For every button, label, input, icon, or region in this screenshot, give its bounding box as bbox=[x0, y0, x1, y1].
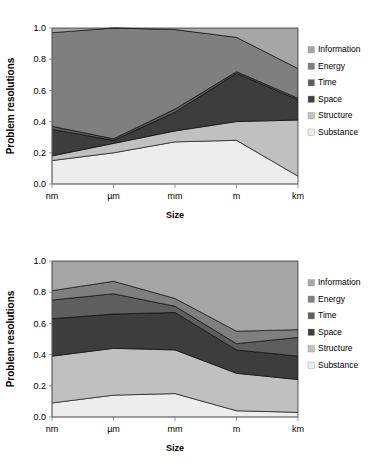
y-axis-title: Problem resolutions bbox=[5, 290, 16, 387]
legend-swatch-energy bbox=[308, 63, 315, 70]
y-tick-label: 0.0 bbox=[33, 412, 46, 422]
y-tick-label: 0.2 bbox=[33, 148, 46, 158]
legend-label-space: Space bbox=[318, 94, 342, 104]
legend-swatch-energy bbox=[308, 296, 315, 303]
chart-bottom-block: 0.00.20.40.60.81.0nmµmmmmkmProblem resol… bbox=[0, 233, 388, 466]
x-tick-label: µm bbox=[107, 424, 120, 434]
legend-swatch-substance bbox=[308, 362, 315, 369]
legend-swatch-information bbox=[308, 280, 315, 287]
legend-swatch-information bbox=[308, 47, 315, 54]
legend-swatch-space bbox=[308, 96, 315, 103]
x-tick-label: nm bbox=[46, 191, 59, 201]
y-tick-label: 0.4 bbox=[33, 117, 46, 127]
y-tick-label: 0.0 bbox=[33, 179, 46, 189]
y-tick-label: 0.2 bbox=[33, 381, 46, 391]
x-tick-label: m bbox=[233, 191, 241, 201]
legend-label-structure: Structure bbox=[318, 343, 353, 353]
x-tick-label: mm bbox=[168, 191, 183, 201]
x-tick-label: µm bbox=[107, 191, 120, 201]
legend-label-substance: Substance bbox=[318, 360, 358, 370]
x-tick-label: km bbox=[292, 424, 304, 434]
chart-bottom-svg: 0.00.20.40.60.81.0nmµmmmmkmProblem resol… bbox=[0, 233, 388, 466]
y-tick-label: 0.6 bbox=[33, 319, 46, 329]
x-axis-title: Size bbox=[166, 443, 184, 453]
legend-label-information: Information bbox=[318, 44, 361, 54]
legend-swatch-structure bbox=[308, 113, 315, 120]
y-axis-title: Problem resolutions bbox=[5, 57, 16, 154]
figure-container: 0.00.20.40.60.81.0nmµmmmmkmProblem resol… bbox=[0, 0, 388, 466]
legend-label-energy: Energy bbox=[318, 61, 346, 71]
x-tick-label: m bbox=[233, 424, 241, 434]
legend-label-energy: Energy bbox=[318, 294, 346, 304]
x-tick-label: mm bbox=[168, 424, 183, 434]
y-tick-label: 1.0 bbox=[33, 256, 46, 266]
legend-swatch-structure bbox=[308, 346, 315, 353]
legend-swatch-time bbox=[308, 80, 315, 87]
legend-label-space: Space bbox=[318, 327, 342, 337]
y-tick-label: 0.4 bbox=[33, 350, 46, 360]
y-tick-label: 0.8 bbox=[33, 287, 46, 297]
legend-label-information: Information bbox=[318, 277, 361, 287]
legend-label-time: Time bbox=[318, 310, 337, 320]
legend-label-time: Time bbox=[318, 77, 337, 87]
chart-top-svg: 0.00.20.40.60.81.0nmµmmmmkmProblem resol… bbox=[0, 0, 388, 233]
x-tick-label: km bbox=[292, 191, 304, 201]
x-axis-title: Size bbox=[166, 210, 184, 220]
x-tick-label: nm bbox=[46, 424, 59, 434]
y-tick-label: 1.0 bbox=[33, 23, 46, 33]
chart-top-block: 0.00.20.40.60.81.0nmµmmmmkmProblem resol… bbox=[0, 0, 388, 233]
y-tick-label: 0.8 bbox=[33, 54, 46, 64]
legend-label-structure: Structure bbox=[318, 110, 353, 120]
legend-swatch-space bbox=[308, 329, 315, 336]
y-tick-label: 0.6 bbox=[33, 86, 46, 96]
legend-swatch-time bbox=[308, 313, 315, 320]
legend-label-substance: Substance bbox=[318, 127, 358, 137]
legend-swatch-substance bbox=[308, 129, 315, 136]
